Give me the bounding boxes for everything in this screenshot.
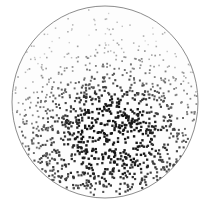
scatter-plot-canvas <box>0 0 209 207</box>
scatter-plot-figure: Circular scatter density plot of small s… <box>0 0 209 207</box>
